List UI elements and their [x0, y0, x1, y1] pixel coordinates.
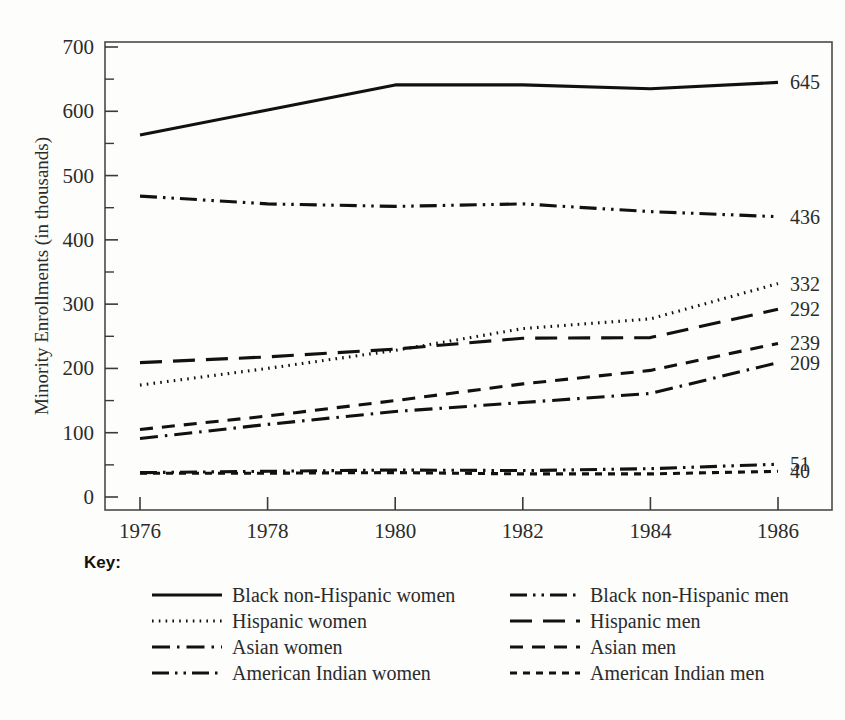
x-tick-label-1976: 1976: [119, 519, 161, 543]
key-label-hispanic-women: Hispanic women: [232, 610, 367, 633]
key-label-american-indian-men: American Indian men: [590, 662, 764, 684]
minority-enrollments-chart: 0100200300400500600700 19761978198019821…: [0, 0, 845, 720]
y-tick-label-600: 600: [63, 99, 95, 123]
key-label-black-non-hispanic-men: Black non-Hispanic men: [590, 584, 789, 607]
series-line-black-non-hispanic-men: [140, 196, 778, 217]
x-tick-label-1980: 1980: [374, 519, 416, 543]
end-value-hispanic-women: 332: [790, 273, 820, 295]
series-line-american-indian-men: [140, 471, 778, 474]
plot-frame: [105, 42, 832, 510]
key-label-black-non-hispanic-women: Black non-Hispanic women: [232, 584, 455, 607]
end-value-black-non-hispanic-men: 436: [790, 206, 820, 228]
key-label-asian-men: Asian men: [590, 636, 676, 658]
y-tick-label-500: 500: [63, 164, 95, 188]
end-value-labels: 6453322095143629223940: [790, 71, 820, 482]
series-line-black-non-hispanic-women: [140, 82, 778, 135]
key-label-asian-women: Asian women: [232, 636, 343, 658]
series-line-asian-men: [140, 343, 778, 429]
end-value-american-indian-men: 40: [790, 460, 810, 482]
y-axis-title: Minority Enrollments (in thousands): [31, 137, 53, 415]
x-tick-label-1986: 1986: [757, 519, 799, 543]
y-axis: 0100200300400500600700: [63, 35, 119, 509]
y-tick-label-0: 0: [84, 485, 95, 509]
y-tick-label-400: 400: [63, 228, 95, 252]
end-value-asian-men: 239: [790, 332, 820, 354]
end-value-hispanic-men: 292: [790, 298, 820, 320]
x-tick-label-1984: 1984: [629, 519, 672, 543]
series-line-american-indian-women: [140, 464, 778, 472]
key-column-men: Black non-Hispanic menHispanic menAsian …: [510, 584, 789, 684]
key-title: Key:: [84, 553, 121, 572]
key-label-hispanic-men: Hispanic men: [590, 610, 701, 633]
x-tick-label-1982: 1982: [502, 519, 544, 543]
key-column-women: Black non-Hispanic womenHispanic womenAs…: [152, 584, 455, 684]
series-group: [140, 82, 778, 474]
end-value-black-non-hispanic-women: 645: [790, 71, 820, 93]
series-line-hispanic-women: [140, 284, 778, 386]
y-tick-label-100: 100: [63, 421, 95, 445]
x-axis: 197619781980198219841986: [119, 497, 799, 543]
y-tick-label-300: 300: [63, 292, 95, 316]
y-tick-label-200: 200: [63, 356, 95, 380]
key-label-american-indian-women: American Indian women: [232, 662, 431, 684]
end-value-asian-women: 209: [790, 352, 820, 374]
x-tick-label-1978: 1978: [247, 519, 289, 543]
series-line-hispanic-men: [140, 309, 778, 362]
y-tick-label-700: 700: [63, 35, 95, 59]
